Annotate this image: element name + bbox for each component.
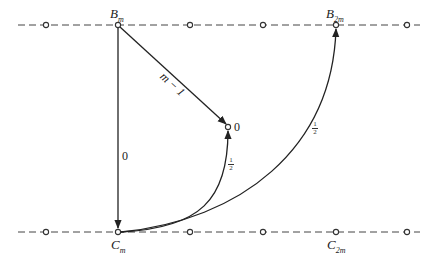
weight-bm-cm: 0	[122, 150, 128, 162]
label-c-2m: C2m	[327, 238, 345, 255]
diagram-canvas	[0, 0, 427, 262]
label-b-m: Bm	[110, 7, 124, 24]
weight-cm-b2m: 12	[311, 121, 319, 136]
label-b-2m: B2m	[326, 7, 344, 24]
label-middle-node: 0	[234, 121, 240, 133]
label-c-m: Cm	[111, 238, 125, 255]
edge-cm-b2m	[121, 29, 336, 232]
middle-node	[225, 124, 230, 129]
weight-cm-middle: 12	[227, 157, 235, 172]
edge-cm-middle	[121, 131, 228, 232]
